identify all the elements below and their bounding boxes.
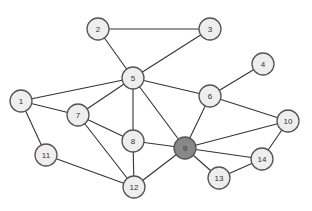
node-label: 7: [76, 111, 81, 120]
node-9: 9: [174, 137, 196, 159]
node-label: 3: [208, 25, 213, 34]
node-label: 6: [208, 92, 213, 101]
edges-layer: [21, 29, 288, 187]
node-label: 14: [258, 155, 267, 164]
node-12: 12: [123, 176, 145, 198]
node-8: 8: [122, 130, 144, 152]
node-label: 2: [96, 25, 101, 34]
node-label: 11: [42, 151, 51, 160]
node-label: 8: [131, 137, 136, 146]
node-label: 9: [183, 144, 188, 153]
node-10: 10: [277, 110, 299, 132]
edge-9-14: [185, 148, 262, 159]
node-4: 4: [252, 53, 274, 75]
node-3: 3: [199, 18, 221, 40]
node-label: 5: [131, 74, 136, 83]
edge-7-12: [78, 115, 134, 187]
node-14: 14: [251, 148, 273, 170]
node-label: 13: [215, 174, 224, 183]
node-label: 12: [130, 183, 139, 192]
network-graph: 1234567891011121314: [0, 0, 312, 211]
node-2: 2: [87, 18, 109, 40]
edge-11-12: [46, 155, 134, 187]
node-label: 1: [19, 97, 24, 106]
edge-3-5: [133, 29, 210, 78]
node-7: 7: [67, 104, 89, 126]
node-6: 6: [199, 85, 221, 107]
node-13: 13: [208, 167, 230, 189]
node-11: 11: [35, 144, 57, 166]
node-label: 4: [261, 60, 266, 69]
node-1: 1: [10, 90, 32, 112]
node-5: 5: [122, 67, 144, 89]
edge-6-10: [210, 96, 288, 121]
node-label: 10: [284, 117, 293, 126]
